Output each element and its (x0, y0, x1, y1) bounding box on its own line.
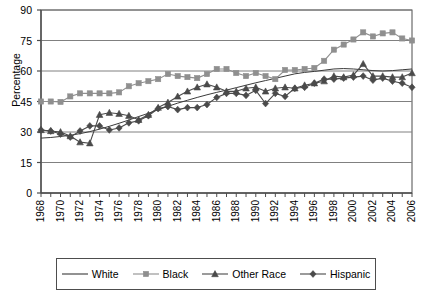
legend-label: Hispanic (330, 268, 370, 280)
marker-square (126, 84, 131, 89)
marker-diamond (310, 271, 316, 278)
marker-square (331, 47, 336, 52)
marker-square (390, 30, 395, 35)
marker-square (195, 76, 200, 81)
legend-item-other-race[interactable]: Other Race (195, 268, 293, 280)
x-tick-label-1984: 1984 (192, 200, 202, 222)
marker-square (224, 66, 229, 71)
marker-square (136, 81, 141, 86)
x-tick-label-1974: 1974 (95, 200, 105, 222)
y-tick-label-30: 30 (10, 127, 32, 137)
marker-square (253, 70, 258, 75)
marker-square (48, 99, 53, 104)
marker-square (87, 91, 92, 96)
marker-square (185, 75, 190, 80)
legend-item-black[interactable]: Black (126, 268, 196, 280)
chart-legend: WhiteBlackOther RaceHispanic (56, 258, 376, 290)
marker-square (409, 38, 414, 43)
marker-square (351, 37, 356, 42)
y-axis-tick-labels: 0153045607590 (8, 0, 32, 200)
marker-square (234, 70, 239, 75)
y-tick-label-60: 60 (10, 66, 32, 76)
x-tick-label-1980: 1980 (153, 200, 163, 222)
y-tick-label-45: 45 (10, 97, 32, 107)
marker-square (204, 71, 209, 76)
marker-square (146, 79, 151, 84)
legend-item-white[interactable]: White (55, 268, 126, 280)
legend-label: Black (163, 268, 189, 280)
legend-item-hispanic[interactable]: Hispanic (293, 268, 377, 280)
legend-swatch-none-icon (62, 269, 88, 279)
legend-swatch-triangle-icon (202, 269, 228, 279)
x-tick-label-1970: 1970 (56, 200, 66, 222)
x-tick-label-2004: 2004 (387, 200, 397, 222)
marker-square (97, 91, 102, 96)
x-tick-label-2006: 2006 (407, 200, 417, 222)
marker-square (214, 66, 219, 71)
x-tick-label-1976: 1976 (114, 200, 124, 222)
legend-swatch-diamond-icon (300, 269, 326, 279)
marker-square (273, 77, 278, 82)
y-tick-label-75: 75 (10, 36, 32, 46)
marker-square (292, 67, 297, 72)
marker-square (38, 99, 43, 104)
marker-square (77, 91, 82, 96)
legend-swatch-square-icon (133, 269, 159, 279)
marker-square (165, 71, 170, 76)
x-tick-label-1992: 1992 (270, 200, 280, 222)
chart-screenshot: Percentage 0153045607590 196819701972197… (0, 0, 427, 298)
x-tick-label-1998: 1998 (329, 200, 339, 222)
marker-square (175, 73, 180, 78)
marker-square (380, 31, 385, 36)
x-tick-label-1978: 1978 (134, 200, 144, 222)
y-tick-label-90: 90 (10, 5, 32, 15)
x-tick-label-1994: 1994 (290, 200, 300, 222)
x-tick-label-1990: 1990 (251, 200, 261, 222)
marker-square (312, 65, 317, 70)
marker-square (341, 42, 346, 47)
marker-square (107, 91, 112, 96)
marker-square (302, 66, 307, 71)
x-tick-label-2000: 2000 (348, 200, 358, 222)
x-tick-label-1968: 1968 (36, 200, 46, 222)
x-tick-label-1982: 1982 (173, 200, 183, 222)
marker-square (263, 73, 268, 78)
y-tick-label-15: 15 (10, 158, 32, 168)
legend-label: White (92, 268, 119, 280)
x-tick-label-2002: 2002 (368, 200, 378, 222)
marker-square (143, 271, 148, 276)
marker-square (370, 34, 375, 39)
marker-square (400, 36, 405, 41)
y-tick-label-0: 0 (10, 188, 32, 198)
legend-label: Other Race (232, 268, 286, 280)
marker-square (361, 30, 366, 35)
x-tick-label-1972: 1972 (75, 200, 85, 222)
x-tick-label-1996: 1996 (309, 200, 319, 222)
marker-square (58, 99, 63, 104)
x-tick-label-1988: 1988 (231, 200, 241, 222)
marker-square (282, 67, 287, 72)
marker-square (322, 58, 327, 63)
marker-square (156, 77, 161, 82)
marker-square (117, 90, 122, 95)
line-chart: Percentage 0153045607590 196819701972197… (0, 0, 427, 255)
marker-square (68, 94, 73, 99)
x-tick-label-1986: 1986 (212, 200, 222, 222)
marker-square (243, 73, 248, 78)
